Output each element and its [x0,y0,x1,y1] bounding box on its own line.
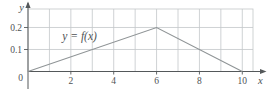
x-tick-label: 6 [154,76,159,86]
chart-svg: 2468100.10.20xyy = f(x) [0,0,271,95]
x-tick-label: 2 [68,76,73,86]
y-tick-label: 0.2 [10,23,22,33]
y-axis-arrow [25,2,30,9]
x-axis-arrow [260,69,267,74]
y-axis-label: y [18,2,24,13]
function-annotation: y = f(x) [61,30,97,43]
x-tick-label: 4 [111,76,116,86]
axes-layer [24,2,267,90]
x-tick-label: 10 [238,76,248,86]
label-layer: 2468100.10.20xyy = f(x) [10,2,263,86]
y-tick-label: 0.1 [10,45,22,55]
origin-label: 0 [18,73,23,83]
x-tick-label: 8 [197,76,202,86]
x-axis-label: x [257,75,263,86]
chart-figure: 2468100.10.20xyy = f(x) [0,0,271,95]
